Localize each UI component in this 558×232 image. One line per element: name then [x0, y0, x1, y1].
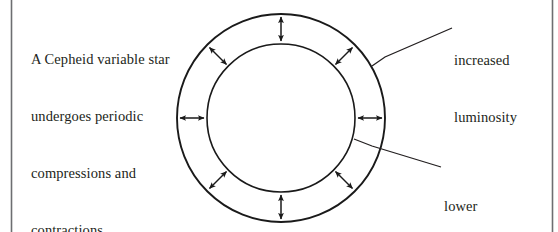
pulsation-arrow-southeast: [336, 172, 353, 189]
leader-line-lower-luminosity: [354, 139, 441, 167]
caption-line-3: compressions and: [31, 164, 191, 183]
caption-line-4: contractions.: [31, 221, 191, 232]
leader-line-increased-luminosity: [372, 28, 452, 66]
label-lower-luminosity: lower luminosity: [444, 159, 507, 232]
inner-circle-lower-luminosity: [207, 44, 355, 192]
figure-caption: A Cepheid variable star undergoes period…: [31, 12, 191, 232]
label-increased-luminosity-line-2: luminosity: [454, 108, 517, 127]
label-increased-luminosity-line-1: increased: [454, 51, 517, 70]
pulsation-arrow-northwest: [210, 48, 227, 65]
caption-line-2: undergoes periodic: [31, 107, 191, 126]
caption-line-1: A Cepheid variable star: [31, 50, 191, 69]
outer-circle-increased-luminosity: [177, 14, 385, 222]
cepheid-variable-star-figure: A Cepheid variable star undergoes period…: [0, 0, 558, 232]
pulsation-arrow-northeast: [336, 48, 353, 65]
pulsation-arrow-group: [180, 17, 382, 219]
label-increased-luminosity: increased luminosity: [454, 13, 517, 165]
label-lower-luminosity-line-1: lower: [444, 197, 507, 216]
pulsation-arrow-southwest: [210, 172, 227, 189]
